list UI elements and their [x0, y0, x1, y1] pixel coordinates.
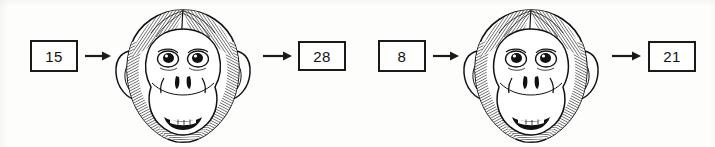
input-value-1: 15 — [45, 49, 63, 64]
output-value-1: 28 — [313, 49, 331, 64]
input-box-1[interactable]: 15 — [30, 40, 78, 72]
output-box-1[interactable]: 28 — [298, 41, 346, 71]
worksheet-canvas: 15 — [0, 0, 715, 147]
input-box-2[interactable]: 8 — [378, 40, 426, 72]
function-machine-1: 15 — [0, 0, 358, 147]
arrow-machine-to-output-2 — [612, 50, 642, 62]
monkey-head-icon-1 — [108, 3, 258, 147]
arrow-machine-to-output-1 — [263, 50, 293, 62]
output-box-2[interactable]: 21 — [648, 41, 696, 72]
monkey-head-icon-2 — [456, 3, 606, 147]
output-value-2: 21 — [663, 49, 681, 64]
input-value-2: 8 — [398, 49, 407, 64]
function-machine-2: 8 — [358, 0, 715, 147]
